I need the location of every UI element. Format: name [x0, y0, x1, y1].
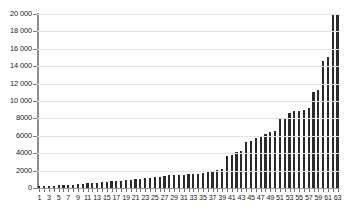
x-axis-tick-label: 59	[315, 193, 323, 202]
bar	[149, 178, 151, 188]
y-axis-tick	[33, 101, 37, 102]
bar	[159, 177, 161, 188]
x-axis-tick	[213, 189, 214, 192]
x-axis-tick	[150, 189, 151, 192]
x-axis-tick-label: 39	[218, 193, 226, 202]
plot-area	[37, 14, 340, 188]
x-axis-tick	[203, 189, 204, 192]
x-axis-tick	[169, 189, 170, 192]
x-axis-tick-label: 51	[276, 193, 284, 202]
bar	[298, 111, 300, 188]
bar	[187, 174, 189, 188]
bar	[178, 175, 180, 188]
bar	[139, 179, 141, 188]
x-axis-tick	[261, 189, 262, 192]
x-axis-tick	[198, 189, 199, 192]
x-axis-tick	[217, 189, 218, 192]
x-axis-tick	[304, 189, 305, 192]
y-axis-tick	[33, 118, 37, 119]
x-axis-tick-label: 57	[305, 193, 313, 202]
x-axis-tick	[78, 189, 79, 192]
x-axis-tick	[294, 189, 295, 192]
x-axis-tick-label: 25	[151, 193, 159, 202]
x-axis-tick-label: 45	[247, 193, 255, 202]
x-axis-tick-label: 63	[334, 193, 342, 202]
bar	[130, 180, 132, 188]
y-axis-tick	[33, 66, 37, 67]
bar	[211, 171, 213, 188]
y-axis-tick	[33, 49, 37, 50]
x-axis-tick	[338, 189, 339, 192]
bar	[312, 92, 314, 188]
x-axis-tick-label: 49	[266, 193, 274, 202]
x-axis-tick-label: 3	[47, 193, 51, 202]
x-axis-tick	[107, 189, 108, 192]
gridline	[37, 118, 340, 119]
y-axis-tick-label: 8000	[16, 113, 32, 122]
bar	[288, 113, 290, 188]
x-axis-tick	[285, 189, 286, 192]
x-axis-tick	[83, 189, 84, 192]
x-axis-tick	[184, 189, 185, 192]
bar	[269, 132, 271, 188]
bar	[221, 169, 223, 188]
gridline	[37, 84, 340, 85]
x-axis-tick	[112, 189, 113, 192]
gridline	[37, 136, 340, 137]
y-axis-tick-label: 20 000	[10, 9, 32, 18]
bar	[202, 173, 204, 188]
bar	[264, 134, 266, 188]
x-axis-tick	[193, 189, 194, 192]
x-axis-tick	[246, 189, 247, 192]
x-axis-tick-label: 29	[170, 193, 178, 202]
y-axis-tick	[33, 31, 37, 32]
x-axis-tick	[280, 189, 281, 192]
y-axis-tick-label: 6000	[16, 131, 32, 140]
x-axis-tick-label: 9	[76, 193, 80, 202]
gridline	[37, 171, 340, 172]
gridline	[37, 49, 340, 50]
bar	[317, 90, 319, 188]
x-axis-tick	[314, 189, 315, 192]
x-axis-tick-label: 35	[199, 193, 207, 202]
x-axis-tick	[309, 189, 310, 192]
x-axis-tick	[126, 189, 127, 192]
x-axis-tick-label: 31	[180, 193, 188, 202]
bar-chart: 0200040006000800010 00012 00014 00016 00…	[0, 0, 346, 219]
x-axis-tick	[116, 189, 117, 192]
bar	[168, 175, 170, 188]
bar	[308, 108, 310, 188]
gridline	[37, 153, 340, 154]
x-axis-tick	[333, 189, 334, 192]
x-axis-tick	[102, 189, 103, 192]
bar	[163, 176, 165, 188]
bar	[192, 174, 194, 188]
bar	[207, 172, 209, 188]
x-axis-tick-label: 15	[103, 193, 111, 202]
bar	[197, 174, 199, 188]
x-axis-tick	[290, 189, 291, 192]
y-axis-tick-label: 16 000	[10, 44, 32, 53]
bar	[134, 179, 136, 188]
x-axis-tick	[155, 189, 156, 192]
bar	[293, 111, 295, 188]
x-axis-tick	[256, 189, 257, 192]
x-axis-tick	[222, 189, 223, 192]
x-axis-tick	[270, 189, 271, 192]
bar	[115, 181, 117, 188]
x-axis-tick	[140, 189, 141, 192]
x-axis-tick-label: 33	[189, 193, 197, 202]
x-axis-tick	[189, 189, 190, 192]
x-axis-tick	[44, 189, 45, 192]
x-axis-tick-label: 13	[93, 193, 101, 202]
x-axis-tick-label: 11	[84, 193, 91, 202]
bar	[327, 57, 329, 188]
y-axis-tick-label: 0	[28, 183, 32, 192]
y-axis-tick-label: 14 000	[10, 61, 32, 70]
bar	[274, 131, 276, 188]
x-axis-tick	[59, 189, 60, 192]
x-axis-tick	[88, 189, 89, 192]
y-axis-tick-label: 4000	[16, 148, 32, 157]
gridline	[37, 31, 340, 32]
x-axis-tick	[323, 189, 324, 192]
